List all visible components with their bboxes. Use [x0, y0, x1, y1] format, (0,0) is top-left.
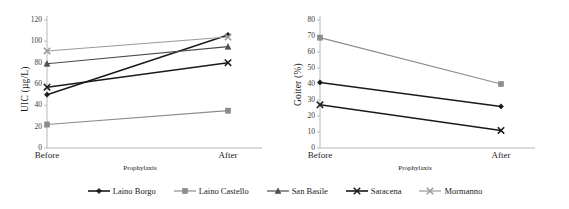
x-category-label: Before: [17, 150, 77, 160]
y-tick-label: 60: [293, 47, 315, 56]
marker-diamond: [498, 104, 503, 109]
y-tick-label: 30: [293, 95, 315, 104]
figure: UIC (µg/L) Prophylaxis 020406080100120Be…: [0, 0, 569, 209]
marker-diamond: [96, 188, 101, 193]
legend-key-triangle-icon: [266, 186, 290, 196]
chart-panel-uic: UIC (µg/L) Prophylaxis 020406080100120Be…: [0, 0, 284, 176]
y-tick-label: 80: [293, 15, 315, 24]
chart-legend: Laino BorgoLaino CastelloSan BasileSarac…: [0, 180, 569, 202]
legend-label: Laino Castello: [199, 187, 249, 196]
legend-item-laino-borgo[interactable]: Laino Borgo: [87, 186, 156, 196]
series-laino_borgo: [317, 80, 503, 109]
series-saracena: [317, 102, 504, 134]
marker-square: [44, 122, 49, 127]
legend-key-x-icon: [418, 186, 442, 196]
legend-label: San Basile: [292, 187, 328, 196]
legend-item-mormanno[interactable]: Mormanno: [418, 186, 482, 196]
legend-key-square-icon: [173, 186, 197, 196]
marker-square: [498, 81, 503, 86]
y-tick-label: 120: [20, 15, 42, 24]
chart-panels: UIC (µg/L) Prophylaxis 020406080100120Be…: [0, 0, 569, 176]
x-category-label: Before: [290, 150, 350, 160]
y-tick-label: 20: [20, 122, 42, 131]
x-category-label: After: [471, 150, 531, 160]
chart-uic-xlabel: Prophylaxis: [100, 164, 180, 172]
y-tick-label: 10: [293, 127, 315, 136]
legend-key-x-icon: [345, 186, 369, 196]
marker-square: [225, 108, 230, 113]
chart-goiter-xlabel: Prophylaxis: [375, 164, 455, 172]
legend-item-laino-castello[interactable]: Laino Castello: [173, 186, 249, 196]
y-tick-label: 40: [293, 79, 315, 88]
legend-item-saracena[interactable]: Saracena: [345, 186, 402, 196]
legend-key-diamond-icon: [87, 186, 111, 196]
y-tick-label: 70: [293, 31, 315, 40]
series-san_basile: [44, 44, 231, 67]
marker-square: [182, 188, 187, 193]
legend-label: Saracena: [371, 187, 402, 196]
legend-item-san-basile[interactable]: San Basile: [266, 186, 328, 196]
y-tick-label: 50: [293, 63, 315, 72]
chart-panel-goiter: Goiter (%) Prophylaxis 01020304050607080…: [285, 0, 569, 176]
y-tick-label: 60: [20, 79, 42, 88]
legend-label: Mormanno: [444, 187, 482, 196]
y-tick-label: 80: [20, 58, 42, 67]
legend-label: Laino Borgo: [113, 187, 156, 196]
marker-square: [317, 35, 322, 40]
marker-diamond: [44, 92, 49, 97]
series-laino_castello: [317, 35, 503, 87]
y-tick-label: 100: [20, 36, 42, 45]
y-tick-label: 20: [293, 111, 315, 120]
y-tick-label: 40: [20, 100, 42, 109]
series-mormanno: [44, 34, 231, 54]
series-laino_borgo: [44, 32, 230, 97]
x-category-label: After: [198, 150, 258, 160]
series-laino_castello: [44, 108, 230, 127]
